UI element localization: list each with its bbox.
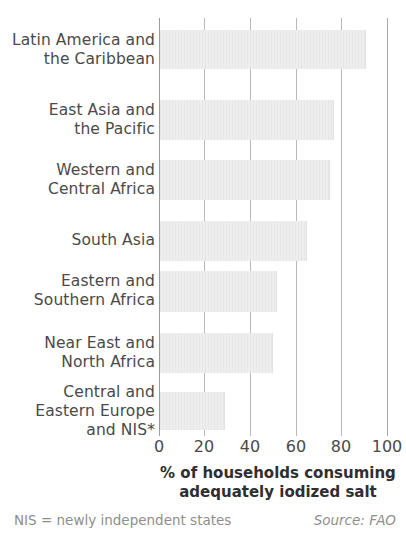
gridline-80 <box>341 18 342 436</box>
category-label-central-eastern-europe-nis: Central and Eastern Europe and NIS* <box>5 383 155 440</box>
category-label-line: Southern Africa <box>5 291 155 310</box>
source-text: Source: FAO <box>314 512 396 528</box>
xtick-label-100: 100 <box>367 438 406 456</box>
plot-area: Latin America and the Caribbean East Asi… <box>0 0 406 436</box>
bar-near-east-and-north-africa <box>160 333 273 373</box>
x-axis-title-line1: % of households consuming <box>150 464 406 483</box>
category-label-eastern-southern-africa: Eastern and Southern Africa <box>5 272 155 310</box>
bar-western-and-central-africa <box>160 160 330 200</box>
chart-figure: Latin America and the Caribbean East Asi… <box>0 0 406 542</box>
bar-latin-america-and-the-caribbean <box>160 30 366 69</box>
category-label-line: and NIS* <box>5 421 155 440</box>
category-label-line: Central and <box>5 383 155 402</box>
category-label-line: the Pacific <box>5 120 155 139</box>
category-label-latin-america: Latin America and the Caribbean <box>5 31 155 69</box>
category-label-line: the Caribbean <box>5 50 155 69</box>
bar-central-and-eastern-europe-nis <box>160 392 225 430</box>
xtick-label-0: 0 <box>139 438 179 456</box>
category-label-western-central-africa: Western and Central Africa <box>5 161 155 199</box>
category-label-line: North Africa <box>5 353 155 372</box>
footnote-text: NIS = newly independent states <box>14 512 231 528</box>
xtick-label-80: 80 <box>321 438 361 456</box>
category-label-line: Latin America and <box>5 31 155 50</box>
chart-footer: NIS = newly independent states Source: F… <box>0 512 406 542</box>
category-label-east-asia: East Asia and the Pacific <box>5 101 155 139</box>
category-label-line: Western and <box>5 161 155 180</box>
category-label-near-east-north-africa: Near East and North Africa <box>5 334 155 372</box>
gridline-100 <box>387 18 388 436</box>
bar-south-asia <box>160 221 307 261</box>
category-label-line: South Asia <box>5 231 155 250</box>
category-label-line: East Asia and <box>5 101 155 120</box>
xtick-label-40: 40 <box>230 438 270 456</box>
category-label-line: Central Africa <box>5 180 155 199</box>
category-label-line: Eastern and <box>5 272 155 291</box>
bar-eastern-and-southern-africa <box>160 271 277 312</box>
bar-east-asia-and-the-pacific <box>160 100 334 140</box>
x-axis-title-line2: adequately iodized salt <box>150 483 406 502</box>
xtick-label-20: 20 <box>184 438 224 456</box>
category-label-line: Near East and <box>5 334 155 353</box>
xtick-label-60: 60 <box>276 438 316 456</box>
category-label-south-asia: South Asia <box>5 231 155 250</box>
x-axis-title: % of households consuming adequately iod… <box>150 464 406 501</box>
category-label-line: Eastern Europe <box>5 402 155 421</box>
